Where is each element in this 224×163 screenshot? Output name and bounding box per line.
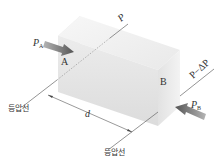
label-P-B: PB — [190, 99, 201, 111]
label-P: P — [114, 11, 127, 24]
diagram-canvas: PA A P P−ΔP B PB d 등압선 등압선 — [0, 0, 224, 163]
label-point-B: B — [160, 76, 167, 87]
label-P-minus-dP: P−ΔP — [187, 56, 212, 80]
label-point-A: A — [61, 56, 69, 67]
label-P-A: PA — [32, 37, 44, 49]
label-isobar-left: 등압선 — [8, 104, 29, 113]
box — [58, 16, 180, 126]
label-isobar-bottom: 등압선 — [104, 148, 125, 157]
